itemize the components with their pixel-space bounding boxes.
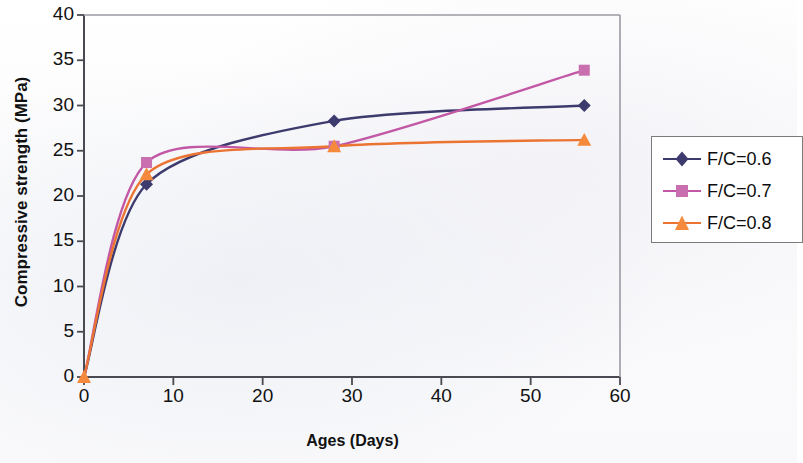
- y-tick-value: 5: [32, 320, 74, 342]
- y-tick-value: 15: [32, 229, 74, 251]
- data-point-marker: [141, 157, 152, 168]
- legend-item-2[interactable]: F/C=0.8: [652, 207, 802, 239]
- legend-item-0[interactable]: F/C=0.6: [652, 143, 802, 175]
- data-point-marker: [578, 99, 591, 112]
- legend-label-1: F/C=0.7: [707, 181, 772, 202]
- x-tick-label: 0: [54, 385, 114, 407]
- y-tick-value: 25: [32, 139, 74, 161]
- series-markers: [77, 65, 591, 383]
- legend-label-2: F/C=0.8: [707, 213, 772, 234]
- y-tick-value: 30: [32, 94, 74, 116]
- y-tick-value: 0: [32, 365, 74, 387]
- diamond-marker-icon: [661, 148, 703, 170]
- x-axis-ticks: [84, 377, 620, 385]
- y-tick-value: 20: [32, 184, 74, 206]
- x-tick-label: 10: [143, 385, 203, 407]
- triangle-marker-icon: [661, 212, 703, 234]
- x-tick-value: 50: [520, 385, 541, 406]
- x-tick-value: 10: [163, 385, 184, 406]
- legend-label-0: F/C=0.6: [707, 149, 772, 170]
- x-axis-title: Ages (Days): [84, 432, 621, 450]
- x-tick-label: 20: [233, 385, 293, 407]
- y-tick-value: 10: [32, 275, 74, 297]
- square-marker-icon: [661, 180, 703, 202]
- data-point-marker: [579, 65, 590, 76]
- x-tick-label: 40: [411, 385, 471, 407]
- data-point-marker: [328, 114, 341, 127]
- x-tick-label: 30: [322, 385, 382, 407]
- x-tick-label: 60: [590, 385, 650, 407]
- x-tick-value: 60: [609, 385, 630, 406]
- x-tick-value: 30: [341, 385, 362, 406]
- axis-frame: [84, 15, 620, 377]
- x-tick-label: 50: [501, 385, 561, 407]
- x-tick-value: 20: [252, 385, 273, 406]
- x-tick-value: 40: [431, 385, 452, 406]
- legend-item-1[interactable]: F/C=0.7: [652, 175, 802, 207]
- y-tick-value: 40: [32, 3, 74, 25]
- y-axis-ticks: [77, 15, 84, 377]
- chart-legend: F/C=0.6 F/C=0.7 F/C=0.8: [651, 136, 803, 243]
- series-line: [84, 140, 584, 377]
- x-tick-value: 0: [79, 385, 90, 406]
- y-tick-value: 35: [32, 48, 74, 70]
